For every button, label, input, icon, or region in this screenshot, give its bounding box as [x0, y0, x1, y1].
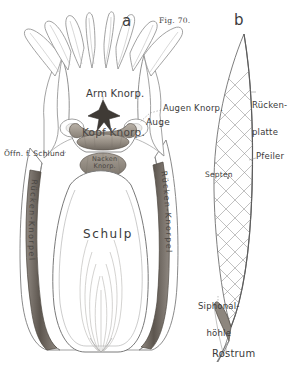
- label-kopf-knorpel: Kopf Knorp.: [82, 127, 145, 138]
- label-oeffnung-schlund: Öffn. f. Schlund: [4, 150, 65, 158]
- figure-caption: Fig. 70.: [159, 17, 191, 25]
- label-pfeiler: Pfeiler: [256, 152, 284, 161]
- label-rostrum: Rostrum: [212, 349, 255, 360]
- panel-b-id: b: [234, 13, 244, 29]
- label-augen-knorpel: Augen Knorp.: [163, 104, 223, 113]
- anatomical-illustration: Rücken-Knorpel Rücken-Knorpel: [0, 0, 295, 372]
- figure-page: Rücken-Knorpel Rücken-Knorpel: [0, 0, 295, 372]
- label-rueckenplatte: Rücken- platte: [252, 83, 287, 154]
- panel-a-id: a: [122, 14, 131, 30]
- label-schulp: Schulp: [83, 228, 133, 241]
- label-septen: Septen: [205, 171, 233, 179]
- label-siphonalhoehle-line2: höhle: [198, 329, 240, 338]
- label-nacken-knorpel: Nacken Knorp.: [92, 156, 117, 170]
- label-arm-knorpel: Arm Knorp.: [86, 89, 144, 100]
- label-auge: Auge: [146, 118, 170, 127]
- label-siphonalhoehle: Siphonal- höhle: [198, 284, 240, 355]
- label-rueckenplatte-line2: platte: [252, 128, 287, 137]
- label-siphonalhoehle-line1: Siphonal-: [198, 302, 240, 311]
- schulp-shape: [53, 171, 148, 356]
- label-rueckenplatte-line1: Rücken-: [252, 101, 287, 110]
